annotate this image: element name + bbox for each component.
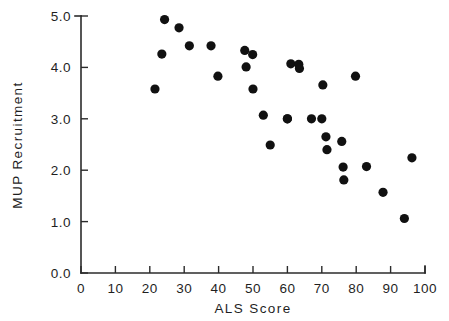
- data-point: [307, 114, 316, 123]
- data-point: [339, 175, 348, 184]
- data-point: [242, 62, 251, 71]
- data-point: [206, 41, 215, 50]
- data-point: [362, 162, 371, 171]
- data-points: [150, 15, 416, 223]
- x-tick-labels: 0102030405060708090100: [77, 281, 437, 296]
- data-point: [240, 46, 249, 55]
- data-point: [400, 214, 409, 223]
- y-tick-label-5.0: 5.0: [51, 9, 71, 24]
- y-axis-title: MUP Recruitment: [10, 81, 25, 208]
- x-tick-label-50: 50: [245, 281, 261, 296]
- x-tick-label-0: 0: [77, 281, 85, 296]
- data-point: [318, 80, 327, 89]
- data-point: [248, 50, 257, 59]
- y-tick-labels: 0.01.02.03.04.05.0: [51, 9, 71, 281]
- y-tick-label-3.0: 3.0: [51, 112, 71, 127]
- x-tick-label-40: 40: [211, 281, 227, 296]
- data-point: [322, 145, 331, 154]
- y-tick-label-4.0: 4.0: [51, 60, 71, 75]
- data-point: [337, 137, 346, 146]
- data-point: [407, 153, 416, 162]
- data-point: [248, 84, 257, 93]
- x-tick-label-90: 90: [383, 281, 399, 296]
- y-tick-label-0.0: 0.0: [51, 266, 71, 281]
- data-point: [286, 59, 295, 68]
- data-point: [185, 41, 194, 50]
- data-point: [213, 72, 222, 81]
- x-tick-label-80: 80: [348, 281, 364, 296]
- x-axis-title: ALS Score: [214, 301, 291, 316]
- data-point: [266, 140, 275, 149]
- data-point: [259, 111, 268, 120]
- data-point: [157, 49, 166, 58]
- data-point: [339, 163, 348, 172]
- x-tick-label-20: 20: [142, 281, 158, 296]
- data-point: [378, 188, 387, 197]
- y-tick-label-1.0: 1.0: [51, 215, 71, 230]
- data-point: [150, 84, 159, 93]
- x-tick-label-70: 70: [314, 281, 330, 296]
- data-point: [283, 114, 292, 123]
- data-point: [174, 23, 183, 32]
- scatter-plot-figure: 0102030405060708090100 0.01.02.03.04.05.…: [0, 0, 449, 321]
- x-tick-label-30: 30: [176, 281, 192, 296]
- x-tick-label-60: 60: [279, 281, 295, 296]
- data-point: [317, 114, 326, 123]
- plot-canvas: 0102030405060708090100 0.01.02.03.04.05.…: [0, 0, 449, 321]
- data-point: [351, 72, 360, 81]
- data-point: [321, 132, 330, 141]
- x-tick-label-100: 100: [413, 281, 437, 296]
- y-tick-label-2.0: 2.0: [51, 163, 71, 178]
- data-point: [295, 64, 304, 73]
- x-tick-label-10: 10: [107, 281, 123, 296]
- data-point: [160, 15, 169, 24]
